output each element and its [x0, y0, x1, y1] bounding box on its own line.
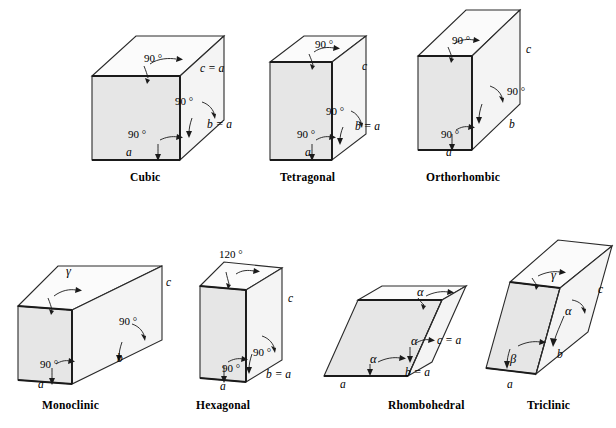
- monoclinic-angle-front: 90 °: [40, 358, 58, 370]
- orthorhombic-axis-c: c: [526, 43, 531, 55]
- cubic-axis-b: b = a: [207, 118, 232, 130]
- monoclinic-axis-b: b: [117, 352, 123, 364]
- triclinic-axis-a: a: [507, 378, 513, 390]
- cubic-cell-drawing: [88, 18, 228, 163]
- tetragonal-axis-a: a: [305, 146, 311, 158]
- orthorhombic-angle-right: 90 °: [507, 85, 525, 97]
- triclinic-angle-top-gamma: γ: [551, 268, 556, 283]
- hexagonal-axis-c: c: [288, 292, 293, 304]
- tetragonal-angle-right: 90 °: [326, 105, 344, 117]
- rhombohedral-angle-front-alpha: α: [370, 352, 377, 367]
- hexagonal-axis-b: b = a: [266, 368, 291, 380]
- cubic-axis-a: a: [126, 146, 132, 158]
- cubic-angle-front: 90 °: [128, 128, 146, 140]
- orthorhombic-caption: Orthorhombic: [426, 171, 500, 183]
- cubic-angle-right: 90 °: [175, 95, 193, 107]
- triclinic-axis-c: c: [598, 283, 603, 295]
- orthorhombic-axis-a: a: [446, 146, 452, 158]
- rhombohedral-axis-a: a: [340, 378, 346, 390]
- rhombohedral-angle-mid-alpha: α: [411, 334, 418, 349]
- orthorhombic-axis-b: b: [509, 118, 515, 130]
- triclinic-caption: Triclinic: [527, 399, 570, 411]
- triclinic-cell-drawing: [482, 238, 616, 393]
- rhombohedral-axis-b: b = a: [405, 366, 430, 378]
- cubic-axis-c: c = a: [200, 62, 224, 74]
- orthorhombic-angle-top: 90 °: [452, 34, 470, 46]
- monoclinic-axis-c: c: [166, 276, 171, 288]
- tetragonal-angle-front: 90 °: [297, 128, 315, 140]
- tetragonal-caption: Tetragonal: [280, 171, 335, 183]
- hexagonal-angle-front: 90 °: [222, 362, 240, 374]
- orthorhombic-angle-front: 90 °: [441, 128, 459, 140]
- triclinic-angle-front-beta: β: [510, 352, 516, 367]
- triclinic-axis-b: b: [557, 348, 563, 360]
- monoclinic-angle-top-gamma: γ: [66, 264, 71, 279]
- monoclinic-cell-drawing: [14, 248, 174, 393]
- hexagonal-caption: Hexagonal: [196, 399, 250, 411]
- monoclinic-axis-a: a: [38, 378, 44, 390]
- rhombohedral-axis-c: c = a: [437, 334, 461, 346]
- cubic-angle-top: 90 °: [144, 52, 162, 64]
- tetragonal-angle-top: 90 °: [315, 38, 333, 50]
- hexagonal-axis-a: a: [220, 380, 226, 392]
- triclinic-angle-right-alpha: α: [565, 304, 572, 319]
- crystal-systems-figure: 90 ° 90 ° 90 ° a b = a c = a Cubic 90 ° …: [0, 0, 616, 428]
- hexagonal-angle-right: 90 °: [253, 346, 271, 358]
- monoclinic-angle-right: 90 °: [119, 315, 137, 327]
- hexagonal-angle-top: 120 °: [219, 248, 243, 260]
- tetragonal-axis-b: b = a: [355, 120, 380, 132]
- tetragonal-axis-c: c: [362, 60, 367, 72]
- monoclinic-caption: Monoclinic: [42, 399, 99, 411]
- cubic-caption: Cubic: [130, 171, 160, 183]
- rhombohedral-angle-top-alpha: α: [417, 285, 424, 300]
- rhombohedral-caption: Rhombohedral: [388, 399, 465, 411]
